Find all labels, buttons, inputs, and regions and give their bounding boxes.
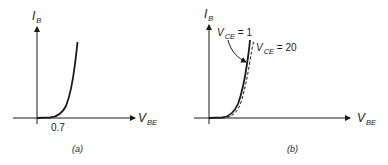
panel-b-vce1-label: VCE = 1 [217, 28, 252, 41]
x-symbol: V [138, 111, 146, 125]
panel-a-x-axis-label: VBE [138, 112, 157, 127]
diagram-canvas [0, 0, 388, 165]
label-symbol: V [217, 27, 224, 38]
x-subscript: BE [366, 118, 376, 127]
panel-b-x-axis-label: VBE [357, 112, 376, 127]
panel-a-ib-curve [37, 42, 78, 118]
panel-a-y-axis-label: IB [32, 10, 41, 25]
panel-b-label-pointer-arrow [228, 40, 246, 62]
label-symbol: V [256, 42, 263, 53]
y-subscript: B [36, 16, 41, 25]
panel-b-caption: (b) [287, 145, 298, 154]
panel-b-vce1-curve [209, 40, 250, 118]
label-subscript: CE [264, 47, 274, 56]
x-symbol: V [357, 111, 365, 125]
panel-a-tick-label: 0.7 [51, 123, 65, 133]
panel-b-vce20-label: VCE = 20 [256, 43, 297, 56]
panel-b-y-axis-label: IB [204, 8, 213, 23]
label-value: = 1 [235, 27, 252, 38]
label-value: = 20 [274, 42, 297, 53]
panel-a-caption: (a) [72, 145, 83, 154]
y-subscript: B [208, 14, 213, 23]
y-symbol: I [32, 9, 35, 23]
y-symbol: I [204, 7, 207, 21]
panel-a [13, 27, 135, 124]
label-subscript: CE [225, 32, 235, 41]
x-subscript: BE [147, 118, 157, 127]
